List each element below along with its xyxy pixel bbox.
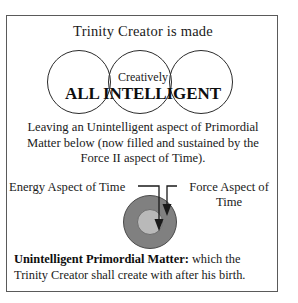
venn-overlay-small-label: Creatively — [7, 70, 279, 85]
arrow-connectors — [7, 179, 279, 251]
lower-diagram: Energy Aspect of Time Force Aspect of Ti… — [7, 179, 279, 251]
energy-arrowhead — [155, 219, 164, 231]
middle-paragraph: Leaving an Unintelligent aspect of Primo… — [13, 120, 273, 167]
figure-border-box: Trinity Creator is made Creatively ALL I… — [6, 15, 278, 292]
venn-overlay-large-label: ALL INTELLIGENT — [7, 84, 279, 104]
figure-title: Trinity Creator is made — [7, 23, 279, 40]
venn-diagram: Creatively ALL INTELLIGENT — [7, 50, 279, 118]
caption-bold-lead: Unintelligent Primordial Matter: — [14, 252, 189, 266]
force-arrowhead — [163, 204, 172, 216]
figure-page: Trinity Creator is made Creatively ALL I… — [0, 0, 298, 303]
bottom-caption: Unintelligent Primordial Matter: which t… — [14, 252, 276, 283]
force-connector-line — [167, 186, 177, 207]
energy-connector-line — [138, 186, 159, 222]
